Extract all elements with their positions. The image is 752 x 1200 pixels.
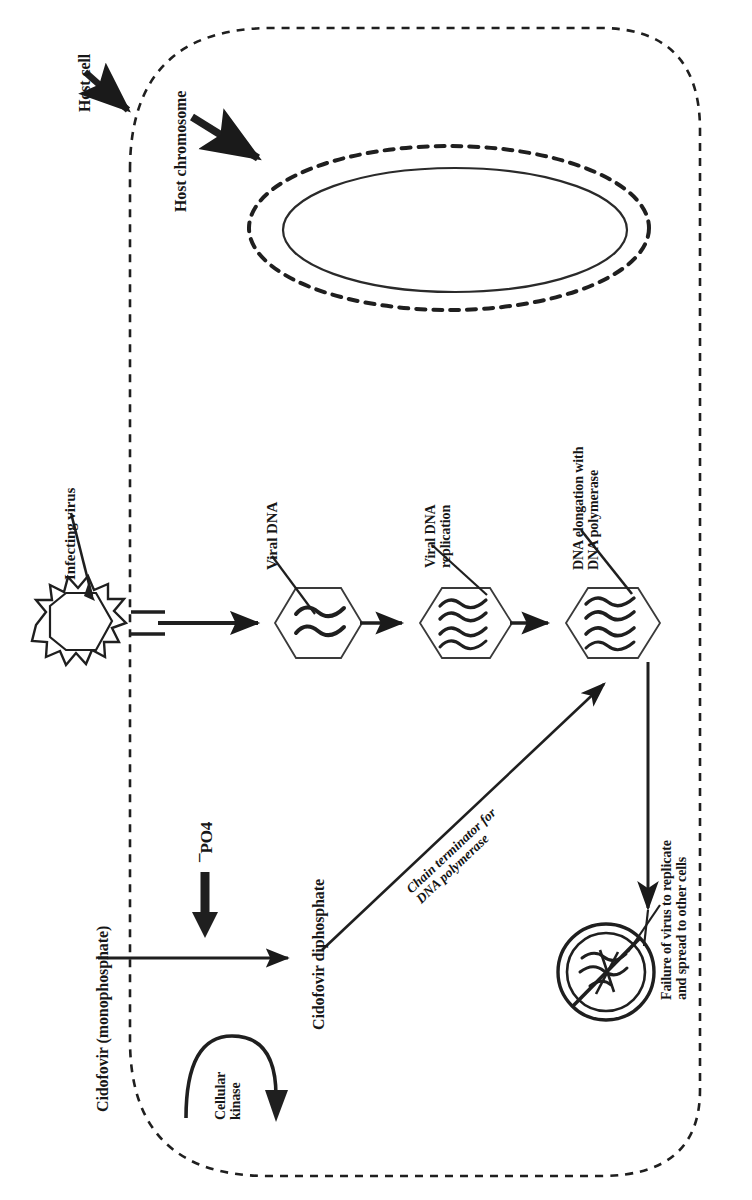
label-viral-dna: Viral DNA — [264, 502, 280, 570]
label-viral-dna-replication: Viral DNA replication — [424, 504, 453, 568]
label-cellular-kinase-line1: Cellular — [214, 1072, 229, 1120]
label-host-chromosome: Host chromosome — [172, 91, 189, 212]
label-dna-elongation-line1: DNA elongation with — [572, 447, 587, 570]
infecting-virus-particle — [32, 576, 126, 665]
chain-terminator-arrow — [322, 684, 604, 950]
viral-dna-capsid — [275, 588, 362, 658]
label-cellular-kinase: Cellular kinase — [214, 1072, 243, 1120]
failure-label-leader-line — [628, 905, 660, 952]
label-viral-dna-replication-line2: replication — [439, 504, 454, 568]
label-host-cell: Host cell — [76, 54, 93, 112]
label-dna-elongation-line2: DNA polymerase — [587, 447, 602, 570]
phosphate-arrow — [192, 872, 218, 938]
label-phosphate: ¯PO4 — [198, 822, 216, 862]
viral-dna-replication-capsid — [420, 588, 512, 658]
label-dna-elongation: DNA elongation with DNA polymerase — [572, 447, 601, 570]
label-infecting-virus: Infecting virus — [62, 488, 78, 580]
label-cidofovir-monophosphate: Cidofovir (monophosphate) — [94, 926, 111, 1112]
host-chromosome-leader-arrow — [192, 117, 258, 158]
label-failure-line2: and spread to other cells — [675, 840, 690, 1000]
label-failure-line1: Failure of virus to replicate — [660, 840, 675, 1000]
label-failure-of-virus: Failure of virus to replicate and spread… — [660, 840, 689, 1000]
label-cidofovir-diphosphate: Cidofovir diphosphate — [310, 879, 327, 1030]
figure-canvas: Host cell Host chromosome Infecting viru… — [0, 0, 752, 1200]
host-chromosome-nucleus — [249, 146, 649, 310]
diagram-vector-layer — [0, 0, 752, 1200]
label-viral-dna-replication-line1: Viral DNA — [424, 504, 439, 568]
blocked-virus-symbol — [558, 924, 654, 1020]
virus-entry-arrow — [131, 612, 258, 634]
label-cellular-kinase-line2: kinase — [229, 1072, 244, 1120]
dna-elongation-capsid — [566, 588, 660, 658]
